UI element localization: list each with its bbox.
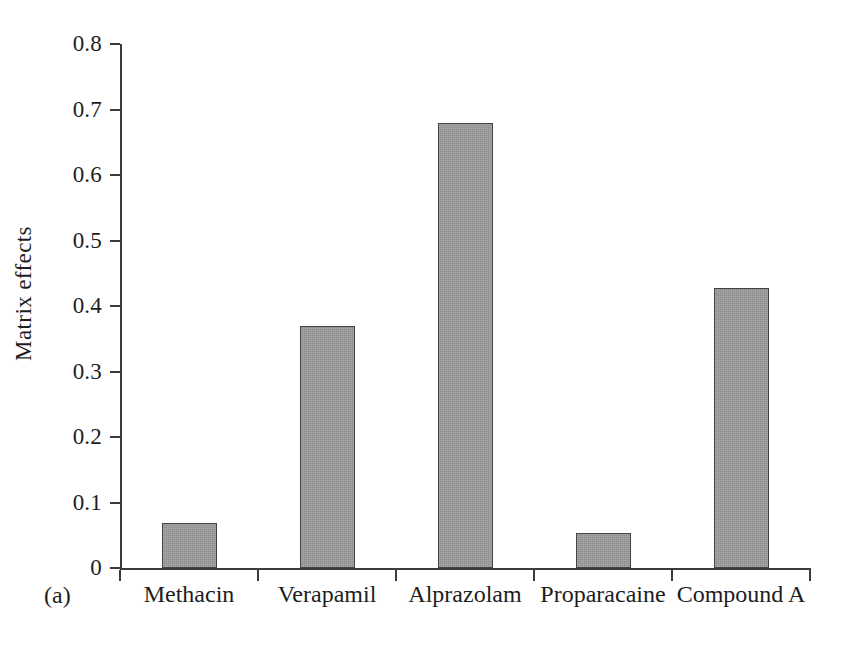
y-axis-tick-label: 0 — [42, 556, 102, 579]
y-axis-tick — [110, 43, 120, 45]
y-axis-tick-label: 0.8 — [42, 32, 102, 55]
y-axis-tick — [110, 371, 120, 373]
bar — [576, 533, 631, 568]
y-axis-tick — [110, 240, 120, 242]
y-axis-tick-label: 0.3 — [42, 360, 102, 383]
y-axis-tick-label: 0.2 — [42, 425, 102, 448]
y-axis-title: Matrix effects — [12, 164, 35, 424]
x-axis-label: Verapamil — [258, 582, 396, 607]
x-axis-label: Proparacaine — [534, 582, 672, 607]
x-axis-label: Methacin — [120, 582, 258, 607]
x-axis-tick — [257, 570, 259, 581]
bar-chart-figure: 0.80.70.60.50.40.30.20.10 Matrix effects… — [0, 0, 855, 657]
y-axis-tick — [110, 305, 120, 307]
y-axis-tick-label: 0.4 — [42, 294, 102, 317]
x-axis-line — [120, 568, 811, 570]
x-axis-tick — [671, 570, 673, 581]
y-axis-tick-label: 0.6 — [42, 163, 102, 186]
x-axis-label: Alprazolam — [396, 582, 534, 607]
bar — [300, 326, 355, 568]
y-axis-tick — [110, 109, 120, 111]
y-axis-tick — [110, 567, 120, 569]
panel-label: (a) — [44, 583, 71, 607]
bar — [162, 523, 217, 568]
x-axis-label: Compound A — [672, 582, 810, 607]
x-axis-tick — [395, 570, 397, 581]
y-axis-tick — [110, 174, 120, 176]
y-axis-tick — [110, 502, 120, 504]
plot-area — [120, 44, 810, 568]
y-axis-tick-label: 0.1 — [42, 491, 102, 514]
bar — [714, 288, 769, 568]
y-axis-tick-label: 0.5 — [42, 229, 102, 252]
x-axis-tick — [533, 570, 535, 581]
y-axis-tick-label: 0.7 — [42, 98, 102, 121]
x-axis-tick — [809, 570, 811, 581]
y-axis-tick — [110, 436, 120, 438]
x-axis-tick — [119, 570, 121, 581]
bar — [438, 123, 493, 568]
